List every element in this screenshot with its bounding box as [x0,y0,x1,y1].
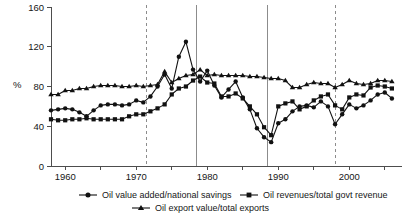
data-point [198,74,202,78]
data-point [361,93,365,97]
data-point [262,125,266,129]
data-point [383,84,387,88]
data-point [63,118,67,122]
x-tick-label-2000: 2000 [339,171,360,182]
data-point [191,78,195,82]
data-point [340,112,344,116]
data-point [255,126,259,130]
data-point [134,112,138,116]
data-point [255,112,259,116]
data-point [319,94,323,98]
data-point [319,99,323,103]
data-point [77,110,81,114]
data-point [133,83,138,88]
series-circle [49,40,394,145]
data-point [106,117,110,121]
data-series-group [48,40,394,145]
legend-item-triangle: Oil export value/total exports [132,203,270,213]
data-point [70,117,74,121]
data-point [155,106,159,110]
data-point [49,108,53,112]
data-point [390,96,394,100]
data-point [212,72,217,77]
data-point [197,67,202,72]
line-chart: 04080120160 19601970198019902000 % Oil v… [0,0,406,220]
data-point [269,133,273,137]
data-point [177,54,181,58]
legend-label: Oil revenues/total govt revenue [263,190,388,200]
data-point [226,94,230,98]
data-point [148,94,152,98]
data-point [276,121,280,125]
data-point [141,100,145,104]
data-point [170,92,174,96]
data-point [383,90,387,94]
data-point [205,68,209,72]
data-point [312,105,316,109]
data-point [92,117,96,121]
data-point [148,109,152,113]
data-point [77,117,81,121]
data-point [376,83,380,87]
data-point [205,80,209,84]
series-line-circle [51,42,392,142]
data-point [219,94,223,98]
data-point [134,98,138,102]
data-point [290,109,294,113]
legend-label: Oil export value/total exports [155,203,270,213]
x-tick-label-1980: 1980 [197,171,218,182]
data-point [297,107,301,111]
data-point [212,81,216,85]
data-point [226,87,230,91]
data-point [233,79,237,83]
data-point [333,122,337,126]
data-point [113,102,117,106]
y-tick-label-0: 0 [39,161,44,172]
data-point [184,84,188,88]
legend-marker-square [247,193,252,198]
legend-item-circle: Oil value added/national savings [79,190,232,200]
data-point [70,107,74,111]
data-point [368,85,372,89]
data-point [120,117,124,121]
x-tick-label-1960: 1960 [55,171,76,182]
data-point [361,103,365,107]
series-triangle [48,67,394,96]
data-point [347,95,351,99]
chart-legend: Oil value added/national savingsOil reve… [79,190,388,213]
data-point [141,112,145,116]
axes-group [47,7,402,170]
data-point [354,92,358,96]
data-point [311,80,316,85]
data-point [290,99,294,103]
data-point [326,104,330,108]
data-point [56,107,60,111]
data-point [375,92,379,96]
data-point [170,86,174,90]
legend-label: Oil value added/national savings [102,190,232,200]
data-point [120,103,124,107]
data-point [84,116,88,120]
data-point [262,135,266,139]
data-point [106,102,110,106]
data-point [162,69,167,74]
data-point [312,98,316,102]
data-point [91,108,95,112]
x-tick-label-1970: 1970 [126,171,147,182]
legend-marker-circle [85,192,90,197]
data-point [191,67,195,71]
legend-item-square: Oil revenues/total govt revenue [240,190,388,200]
data-point [340,107,344,111]
data-point [184,40,188,44]
data-point [177,86,181,90]
data-point [333,103,337,107]
x-tick-labels-group: 19601970198019902000 [55,171,360,182]
y-tick-label-40: 40 [33,121,44,132]
data-point [127,114,131,118]
data-point [326,92,330,96]
chart-container: 04080120160 19601970198019902000 % Oil v… [0,0,406,220]
data-point [198,79,202,83]
data-point [283,117,287,121]
data-point [390,86,394,90]
y-tick-labels-group: 04080120160 [28,2,44,172]
